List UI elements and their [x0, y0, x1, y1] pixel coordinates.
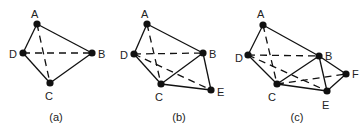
node-d [19, 49, 26, 56]
node-b [315, 52, 322, 59]
node-label-a: A [257, 8, 265, 20]
node-label-b: B [209, 48, 216, 60]
node-b [199, 49, 206, 56]
edge-c-b [161, 53, 203, 84]
edge-d-b [248, 55, 319, 56]
node-d [130, 50, 137, 57]
node-label-c: C [155, 91, 163, 103]
edge-c-b [277, 56, 319, 84]
figure-c: ABCDEF(c) [235, 8, 359, 123]
node-label-a: A [141, 8, 149, 20]
node-label-f: F [352, 68, 359, 80]
node-b [88, 49, 95, 56]
edge-c-b [50, 53, 92, 83]
node-label-e: E [217, 86, 224, 98]
node-label-c: C [45, 90, 53, 102]
node-a [143, 20, 150, 27]
edge-a-b [263, 25, 319, 56]
node-label-a: A [31, 8, 39, 20]
graph-diagram: ABCD(a) ABCDE(b) ABCDEF(c) [0, 0, 363, 132]
edge-d-b [134, 53, 203, 54]
edge-a-b [37, 24, 92, 53]
edge-d-c [248, 55, 277, 84]
node-a [259, 21, 266, 28]
edge-a-c [263, 25, 277, 84]
node-c [273, 80, 280, 87]
node-d [244, 51, 251, 58]
figure-b: ABCDE(b) [120, 8, 224, 123]
node-a [33, 20, 40, 27]
figure-caption: (b) [172, 111, 185, 123]
edge-d-e [134, 54, 211, 90]
edge-d-c [134, 54, 161, 84]
figure-caption: (a) [49, 111, 62, 123]
edge-a-d [134, 24, 147, 54]
figure-caption: (c) [291, 111, 304, 123]
edge-a-d [23, 24, 37, 53]
node-f [342, 70, 349, 77]
node-e [323, 87, 330, 94]
edge-a-b [147, 24, 203, 53]
node-label-b: B [98, 48, 105, 60]
figure-a: ABCD(a) [9, 8, 105, 123]
node-c [46, 79, 53, 86]
node-label-c: C [268, 91, 276, 103]
edge-a-d [248, 25, 263, 55]
edge-d-c [23, 53, 50, 83]
node-label-d: D [235, 52, 243, 64]
node-label-d: D [120, 49, 128, 61]
node-label-b: B [325, 50, 332, 62]
node-label-d: D [9, 48, 17, 60]
node-label-e: E [322, 99, 329, 111]
node-e [207, 86, 214, 93]
node-c [157, 80, 164, 87]
